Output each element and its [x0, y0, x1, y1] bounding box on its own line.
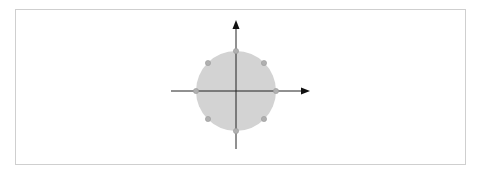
y-axis-arrow-icon [233, 20, 240, 29]
constellation-point [261, 116, 266, 121]
constellation-point [261, 60, 266, 65]
constellation-diagram [0, 0, 482, 176]
constellation-point [193, 88, 198, 93]
x-axis-arrow-icon [301, 88, 310, 95]
constellation-point [233, 48, 238, 53]
constellation-point [273, 88, 278, 93]
constellation-point [205, 116, 210, 121]
constellation-point [205, 60, 210, 65]
constellation-point [233, 128, 238, 133]
